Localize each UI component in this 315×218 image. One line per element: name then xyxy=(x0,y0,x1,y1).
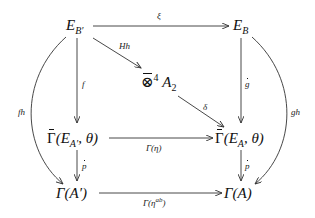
node-gamma-bar-eaprime-close: , θ) xyxy=(78,130,98,146)
diagram-arrows xyxy=(0,0,315,218)
label-gbar: g xyxy=(245,80,250,89)
arrow-gh xyxy=(252,37,287,184)
label-pbar-left-text: p xyxy=(82,162,87,171)
label-gh: gh xyxy=(291,108,300,117)
node-gamma-aprime-text: Γ(A′) xyxy=(56,185,87,201)
label-gbar-text: g xyxy=(245,80,250,89)
node-tensor-tail: A xyxy=(162,74,171,90)
node-e-bprime-base: E xyxy=(66,17,75,33)
label-gamma-eta-ab: Γ(ηab) xyxy=(143,199,166,208)
node-tensor-symbol: ⊗ xyxy=(141,75,154,90)
arrow-hh xyxy=(93,38,141,68)
label-gamma-eta-ab-close: ) xyxy=(163,198,166,208)
label-pbar-right-text: p xyxy=(245,162,250,171)
label-fbar-text: f xyxy=(82,80,85,89)
label-gamma-eta-ab-sup: ab xyxy=(156,196,163,204)
node-gamma-bar-eaprime: Γ(EA′, θ) xyxy=(47,131,98,146)
node-e-b-base: E xyxy=(233,17,242,33)
node-tensor-tail-sub: 2 xyxy=(172,82,177,93)
node-e-b: EB xyxy=(233,18,248,33)
node-tensor-sup: 4 xyxy=(154,72,159,83)
arrow-fh xyxy=(31,37,66,184)
label-hh: Hh xyxy=(119,42,130,51)
label-pbar-left: p xyxy=(82,162,87,171)
label-pbar-right: p xyxy=(245,162,250,171)
node-gamma-bar-ea-open: (E xyxy=(224,130,238,146)
label-fh: fh xyxy=(18,108,25,117)
node-e-bprime-sub: B′ xyxy=(75,25,83,36)
label-delta: δ xyxy=(203,103,207,112)
node-gamma-bar-eaprime-sub: A′ xyxy=(70,138,78,149)
node-gamma-bar-ea: Γ(EA, θ) xyxy=(215,131,264,146)
node-tensor: ⊗4 A2 xyxy=(141,75,177,90)
label-fbar: f xyxy=(82,80,85,89)
label-xi: ξ xyxy=(157,12,161,21)
node-gamma-a: Γ(A) xyxy=(224,186,252,201)
node-gamma-bar-eaprime-open: (E xyxy=(56,130,70,146)
node-gamma-aprime: Γ(A′) xyxy=(56,186,87,201)
node-e-bprime: EB′ xyxy=(66,18,83,33)
node-gamma-bar-symbol: Γ xyxy=(215,131,224,146)
node-gamma-bar-symbol: Γ xyxy=(47,131,56,146)
label-gamma-eta-ab-base: Γ(η xyxy=(143,198,156,208)
arrow-delta xyxy=(178,96,224,127)
node-gamma-bar-ea-close: , θ) xyxy=(244,130,264,146)
node-gamma-a-text: Γ(A) xyxy=(224,185,252,201)
node-e-b-sub: B xyxy=(242,25,248,36)
label-gamma-bar-eta: Γ(η) xyxy=(146,144,162,153)
